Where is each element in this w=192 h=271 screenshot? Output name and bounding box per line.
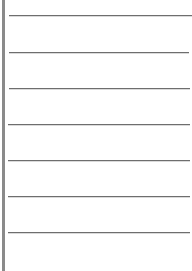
left-margin-bar — [2, 0, 5, 271]
rule-line — [9, 15, 192, 16]
lined-paper-page — [0, 0, 192, 271]
rule-line — [9, 88, 190, 89]
rule-line — [8, 232, 190, 233]
rule-line — [8, 160, 190, 161]
rule-line — [8, 124, 190, 125]
rule-line — [9, 52, 189, 53]
rule-line — [8, 196, 190, 197]
